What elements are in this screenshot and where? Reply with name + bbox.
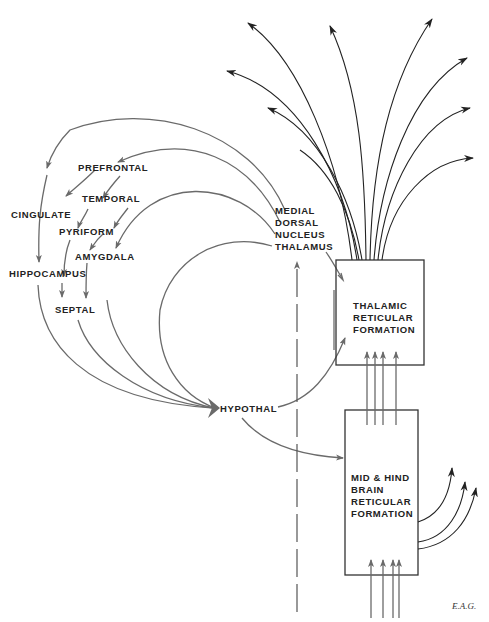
label-amygdala: AMYGDALA bbox=[75, 251, 135, 263]
label-mhb-line4: FORMATION bbox=[351, 508, 413, 520]
label-septal: SEPTAL bbox=[55, 304, 95, 316]
label-trf-line3: FORMATION bbox=[353, 324, 415, 336]
label-mdnt-line3: NUCLEUS bbox=[275, 229, 325, 241]
label-mhb-line3: RETICULAR bbox=[351, 496, 411, 508]
label-temporal: TEMPORAL bbox=[82, 193, 140, 205]
label-trf-line1: THALAMIC bbox=[353, 300, 407, 312]
label-prefrontal: PREFRONTAL bbox=[78, 162, 148, 174]
label-mdnt-line4: THALAMUS bbox=[275, 241, 333, 253]
ascending-to-trf bbox=[367, 352, 396, 425]
label-mhb-line1: MID & HIND bbox=[351, 472, 410, 484]
cortical-fan bbox=[227, 19, 473, 260]
label-trf-line2: RETICULAR bbox=[353, 312, 413, 324]
label-hypothal: HYPOTHAL bbox=[220, 403, 277, 415]
mhb-outputs bbox=[418, 468, 476, 549]
label-mdnt-line1: MEDIAL bbox=[275, 205, 315, 217]
label-mhb-line2: BRAIN bbox=[351, 484, 384, 496]
label-mdnt-line2: DORSAL bbox=[275, 217, 319, 229]
diagram-canvas: PREFRONTAL CINGULATE TEMPORAL PYRIFORM A… bbox=[0, 0, 489, 622]
author-signature: E.A.G. bbox=[452, 601, 476, 611]
label-cingulate: CINGULATE bbox=[11, 209, 71, 221]
label-pyriform: PYRIFORM bbox=[59, 226, 114, 238]
ascending-to-mhb bbox=[371, 560, 399, 618]
label-hippocampus: HIPPOCAMPUS bbox=[9, 268, 86, 280]
